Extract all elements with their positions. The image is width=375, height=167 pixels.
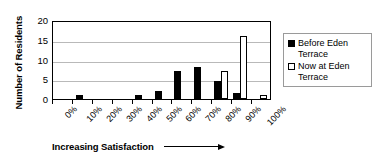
- bar-group: [112, 22, 132, 99]
- bar: [194, 67, 201, 99]
- filled-square-icon: [288, 40, 295, 47]
- x-axis-tick-label: 90%: [243, 104, 263, 124]
- bar-group: [73, 22, 93, 99]
- legend-entry: Before Eden Terrace: [288, 38, 368, 59]
- bar-group: [132, 22, 152, 99]
- x-axis-tick-label: 60%: [184, 104, 204, 124]
- legend-entry: Now at Eden Terrace: [288, 61, 368, 82]
- bar-group: [152, 22, 172, 99]
- x-axis-tick-label: 50%: [164, 104, 184, 124]
- x-axis-tick-label: 40%: [144, 104, 164, 124]
- right-arrow-icon: [164, 143, 226, 150]
- bar: [240, 36, 247, 99]
- y-axis-tick-label: 0: [22, 95, 48, 105]
- bar-group: [92, 22, 112, 99]
- bar-group: [211, 22, 231, 99]
- bar-chart: Number of Residents 05101520 0%10%20%30%…: [0, 0, 375, 167]
- y-axis-tick-label: 10: [22, 56, 48, 66]
- y-axis-tick-label: 15: [22, 36, 48, 46]
- bar: [155, 91, 162, 99]
- bar: [221, 71, 228, 99]
- x-axis-title-group: Increasing Satisfaction: [52, 141, 292, 152]
- x-axis-tick-label: 70%: [204, 104, 224, 124]
- bar: [174, 71, 181, 99]
- bar-group: [53, 22, 73, 99]
- bar: [233, 93, 240, 99]
- x-axis-tick-label: 0%: [63, 104, 79, 120]
- bar-group: [250, 22, 270, 99]
- bar: [76, 95, 83, 99]
- plot-area: [52, 21, 271, 100]
- x-axis-tick-label: 80%: [224, 104, 244, 124]
- bar: [214, 81, 221, 99]
- y-axis-tick-label: 20: [22, 16, 48, 26]
- y-axis-tick-label: 5: [22, 75, 48, 85]
- x-axis-title: Increasing Satisfaction: [52, 141, 154, 152]
- x-axis-tick-label: 20%: [104, 104, 124, 124]
- x-axis-tick-label: 30%: [124, 104, 144, 124]
- legend-label: Now at Eden Terrace: [298, 61, 368, 82]
- bar-group: [231, 22, 251, 99]
- legend: Before Eden TerraceNow at Eden Terrace: [283, 33, 372, 87]
- bars-layer: [53, 22, 270, 99]
- bar-group: [171, 22, 191, 99]
- bar: [135, 95, 142, 99]
- bar: [260, 95, 267, 99]
- x-axis-tick-label: 10%: [84, 104, 104, 124]
- x-axis-tick-label: 100%: [265, 104, 288, 127]
- bar-group: [191, 22, 211, 99]
- x-axis-tick-labels: 0%10%20%30%40%50%60%70%80%90%100%: [52, 104, 271, 134]
- open-square-icon: [288, 63, 295, 70]
- y-axis-tick-labels: 05101520: [22, 16, 48, 104]
- legend-label: Before Eden Terrace: [298, 38, 368, 59]
